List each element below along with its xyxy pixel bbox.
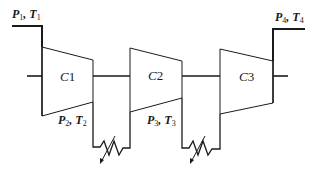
compressor-c3-label: C3 bbox=[239, 70, 254, 83]
outlet-pipe bbox=[273, 29, 305, 61]
state-2-label: P2, T2 bbox=[58, 114, 87, 130]
intercooler-2-pipe bbox=[182, 98, 220, 155]
state-4-label: P4, T4 bbox=[275, 11, 304, 27]
intercooler-1-arrowhead-icon bbox=[100, 158, 104, 164]
compressor-c2-label: C2 bbox=[148, 69, 163, 82]
inlet-pipe bbox=[12, 26, 42, 47]
intercooler-1-coolant-arrow bbox=[101, 136, 115, 162]
state-1-label: P1, T1 bbox=[12, 8, 41, 24]
intercooler-1-pipe bbox=[93, 102, 130, 155]
compressor-diagram bbox=[0, 0, 316, 170]
compressor-c1-label: C1 bbox=[60, 70, 75, 83]
intercooler-2-arrowhead-icon bbox=[190, 158, 194, 164]
state-3-label: P3, T3 bbox=[147, 114, 176, 130]
